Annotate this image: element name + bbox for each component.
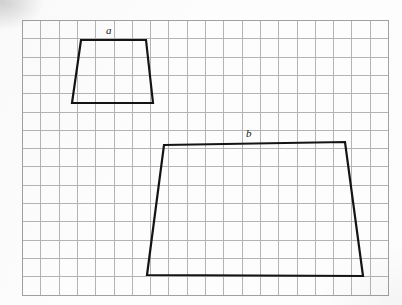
shape-label-b: b bbox=[246, 128, 252, 139]
grid-figure-canvas bbox=[0, 0, 402, 305]
shape-label-a: a bbox=[106, 25, 112, 36]
large-trapezoid bbox=[147, 142, 363, 276]
figure-page: a b bbox=[0, 0, 402, 305]
